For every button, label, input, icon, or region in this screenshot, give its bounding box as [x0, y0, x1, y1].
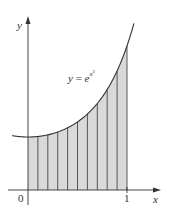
eq-exp-power: 2: [93, 69, 96, 74]
riemann-area-figure: y x 0 1 y = ex2: [0, 0, 173, 218]
y-axis-arrow-icon: [26, 16, 31, 24]
x-tick-label-one: 1: [124, 193, 130, 204]
x-axis-label: x: [153, 194, 158, 205]
origin-label: 0: [18, 193, 24, 204]
curve-equation-label: y = ex2: [68, 70, 95, 84]
x-axis-arrow-icon: [153, 188, 161, 193]
plot-canvas: [0, 0, 173, 218]
y-axis-label: y: [17, 20, 22, 31]
eq-sign: =: [73, 72, 85, 84]
